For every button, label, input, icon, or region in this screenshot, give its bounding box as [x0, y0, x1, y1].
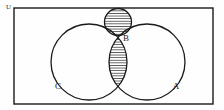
set-label-b: B [123, 33, 129, 43]
venn-diagram-figure: U C A B [0, 0, 224, 110]
set-label-c: C [55, 81, 61, 91]
universal-set-label: U [6, 3, 11, 11]
venn-diagram-canvas: U C A B [0, 0, 224, 110]
set-label-a: A [173, 81, 180, 91]
